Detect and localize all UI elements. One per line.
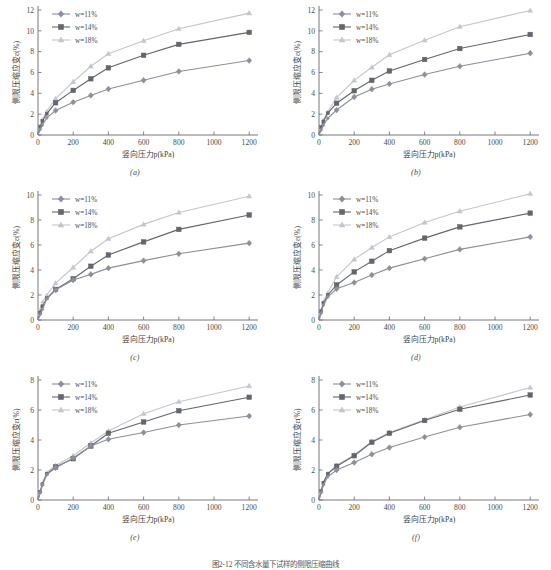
- x-axis-title: 竖向压力p(kPa): [403, 334, 456, 344]
- legend-label-w14: w=14%: [75, 24, 97, 32]
- x-tick-label: 0: [36, 503, 40, 512]
- series-line-w11: [319, 237, 530, 320]
- marker-diamond: [422, 434, 427, 440]
- y-tick-label: 8: [311, 47, 315, 56]
- x-tick-label: 200: [349, 503, 361, 512]
- marker-diamond: [528, 412, 533, 418]
- marker-triangle: [247, 10, 252, 14]
- marker-square: [45, 112, 48, 115]
- x-tick-label: 200: [68, 138, 80, 147]
- marker-square: [528, 211, 533, 216]
- x-tick-label: 400: [103, 138, 115, 147]
- marker-square: [422, 236, 427, 241]
- x-tick-label: 400: [103, 503, 115, 512]
- y-axis-title: 侧限压缩应变ε(%): [11, 41, 21, 104]
- marker-diamond: [106, 86, 111, 92]
- marker-square: [458, 225, 463, 230]
- y-tick-label: 8: [30, 376, 34, 385]
- legend-label-w14: w=14%: [356, 394, 378, 402]
- x-tick-label: 800: [454, 323, 466, 332]
- x-axis-title: 竖向压力p(kPa): [403, 149, 456, 159]
- chart-panel-c: 0246810020040060080010001200w=11%w=14%w=…: [0, 185, 270, 370]
- marker-diamond: [352, 94, 357, 100]
- marker-triangle: [528, 385, 533, 389]
- x-tick-label: 1000: [206, 138, 221, 147]
- chart-svg: 024681012020040060080010001200w=11%w=14%…: [0, 0, 270, 171]
- marker-diamond: [176, 69, 181, 75]
- chart-panel-b: 024681012020040060080010001200w=11%w=14%…: [281, 0, 551, 185]
- chart-svg: 024681012020040060080010001200w=11%w=14%…: [281, 0, 551, 171]
- axes: [319, 6, 539, 135]
- marker-square: [247, 213, 252, 218]
- marker-square: [71, 88, 76, 93]
- legend-label-w11: w=11%: [356, 11, 378, 19]
- series-line-w11: [319, 53, 530, 135]
- axes: [38, 191, 258, 320]
- marker-diamond: [106, 265, 111, 271]
- x-tick-label: 1000: [487, 323, 502, 332]
- x-tick-label: 1200: [242, 138, 257, 147]
- chart-panel-e: 02468020040060080010001200w=11%w=14%w=18…: [0, 370, 270, 550]
- marker-square: [106, 66, 111, 71]
- y-axis-title: 侧限压缩应变ε(%): [11, 226, 21, 289]
- y-tick-label: 0: [311, 131, 315, 140]
- marker-square: [58, 209, 63, 214]
- marker-diamond: [58, 381, 64, 388]
- x-tick-label: 1200: [242, 503, 257, 512]
- y-tick-label: 0: [30, 316, 34, 325]
- marker-square: [458, 407, 463, 412]
- y-tick-label: 8: [311, 216, 315, 225]
- marker-square: [387, 248, 392, 253]
- figure-caption: 图2-12 不同含水量下试样的侧限压缩曲线: [0, 559, 551, 570]
- marker-square: [89, 76, 94, 81]
- marker-diamond: [352, 280, 357, 286]
- marker-diamond: [422, 72, 427, 78]
- series-line-w11: [38, 61, 249, 135]
- marker-square: [334, 101, 339, 106]
- y-tick-label: 4: [30, 266, 34, 275]
- marker-diamond: [106, 436, 111, 442]
- marker-square: [141, 420, 146, 425]
- y-tick-label: 6: [30, 406, 34, 415]
- marker-square: [528, 393, 533, 398]
- chart-panel-f: 02468020040060080010001200w=11%w=14%w=18…: [281, 370, 551, 550]
- marker-diamond: [339, 196, 345, 203]
- chart-svg: 0246810020040060080010001200w=11%w=14%w=…: [0, 185, 270, 356]
- x-axis-title: 竖向压力p(kPa): [122, 334, 175, 344]
- marker-square: [387, 69, 392, 74]
- y-tick-label: 10: [26, 191, 34, 200]
- x-tick-label: 800: [454, 503, 466, 512]
- marker-square: [53, 100, 58, 105]
- marker-diamond: [176, 422, 181, 428]
- legend-label-w18: w=18%: [75, 407, 97, 415]
- y-tick-label: 6: [311, 241, 315, 250]
- y-tick-label: 4: [30, 89, 34, 98]
- marker-square: [352, 270, 357, 275]
- x-tick-label: 400: [384, 138, 396, 147]
- x-tick-label: 200: [68, 323, 80, 332]
- marker-square: [339, 24, 344, 29]
- x-tick-label: 600: [419, 503, 431, 512]
- legend-label-w14: w=14%: [356, 209, 378, 217]
- x-tick-label: 1000: [487, 503, 502, 512]
- figure-panel-grid: 024681012020040060080010001200w=11%w=14%…: [0, 0, 551, 550]
- marker-diamond: [352, 460, 357, 466]
- marker-square: [528, 32, 533, 37]
- legend-label-w18: w=18%: [356, 222, 378, 230]
- x-tick-label: 200: [349, 323, 361, 332]
- x-tick-label: 400: [384, 323, 396, 332]
- marker-diamond: [369, 272, 374, 278]
- chart-svg: 02468020040060080010001200w=11%w=14%w=18…: [0, 370, 270, 536]
- marker-square: [370, 259, 375, 264]
- y-tick-label: 0: [30, 131, 34, 140]
- marker-square: [58, 24, 63, 29]
- y-tick-label: 10: [307, 27, 315, 36]
- x-tick-label: 0: [36, 323, 40, 332]
- series-line-w18: [38, 13, 249, 135]
- marker-square: [177, 408, 182, 413]
- y-tick-label: 0: [311, 316, 315, 325]
- chart-panel-d: 0246810020040060080010001200w=11%w=14%w=…: [281, 185, 551, 370]
- marker-triangle: [369, 65, 374, 69]
- marker-square: [58, 394, 63, 399]
- y-axis-title: 侧限压缩应变ε(%): [11, 408, 21, 471]
